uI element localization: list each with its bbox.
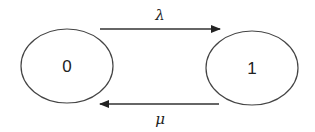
mu-label: μ bbox=[155, 110, 165, 128]
state-1-label: 1 bbox=[247, 59, 256, 78]
transition-1-to-0: μ bbox=[100, 104, 219, 128]
state-1-node: 1 bbox=[206, 31, 298, 105]
state-0-node: 0 bbox=[21, 29, 113, 103]
lambda-label: λ bbox=[154, 6, 165, 24]
state-0-label: 0 bbox=[62, 57, 71, 76]
transition-0-to-1: λ bbox=[100, 6, 220, 29]
state-diagram: 0 1 λ μ bbox=[0, 0, 315, 132]
